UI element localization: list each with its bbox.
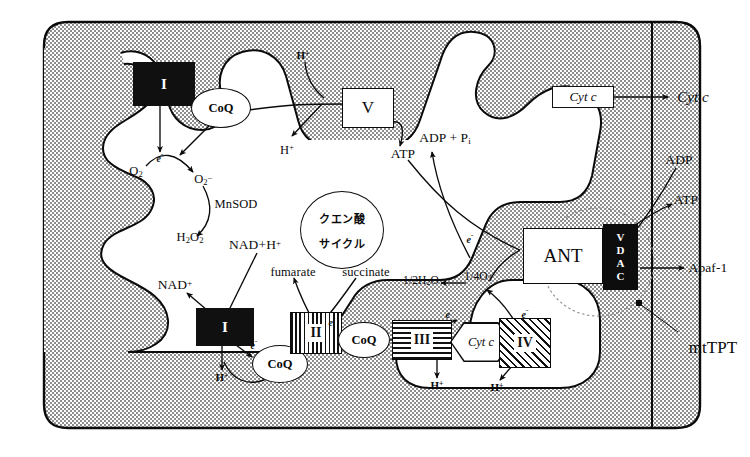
label-mnsod: MnSOD [215,198,258,211]
label-atp-out: ATP [674,193,698,207]
complex-V: V [342,88,394,128]
vdac-label: VDAC [615,231,627,283]
label-o2: O2 [129,165,143,178]
proton-complex-I: H+ [216,371,229,383]
label-nad-plus: NAD+ [158,278,193,292]
label-superoxide: O2– [194,173,212,186]
label-nadh: NAD+H+ [229,238,281,252]
complex-IV-label: IV [515,335,535,351]
label-apaf1: Apaf-1 [689,261,728,275]
electron-complex-I-top: e- [156,150,163,163]
tca-cycle-circle: クエン酸 サイクル [300,191,384,269]
complex-I-top-label: I [161,76,167,93]
vdac-channel: VDAC [603,224,638,290]
complex-III-label: III [412,332,432,348]
cytc-hexagon-label: Cyt c [468,335,494,350]
coq-bottom-label: CoQ [268,357,293,372]
electron-complex-IV: e- [521,306,528,319]
complex-I-bottom-label: I [222,319,228,336]
coq-middle-label: CoQ [352,333,377,348]
complex-III: III [392,320,452,360]
complex-IV: IV [499,318,551,368]
cytc-boxed: Cyt c [552,86,614,108]
label-mtptp: mtTPT [689,339,738,356]
proton-complex-IV: H+ [491,381,504,393]
label-cytc-released: Cyt c [677,90,709,105]
ant-transporter: ANT [523,228,603,284]
complex-II-label: II [309,325,324,341]
complex-I-top: I [133,62,195,106]
coq-top-label: CoQ [209,101,234,116]
proton-below-complex-V: H+ [280,144,294,157]
ant-label: ANT [543,245,582,267]
label-adp-in: ADP [665,153,692,167]
label-quarter-o2: 1/4O2 [464,271,491,284]
label-fumarate: fumarate [270,266,315,279]
coq-middle: CoQ [338,322,390,358]
label-half-water: 1/2H2O [403,275,439,288]
cytc-boxed-label: Cyt c [569,89,596,105]
electron-ant-left: e- [466,231,473,244]
tca-line1: クエン酸 [319,210,365,226]
tca-line2: サイクル [319,235,365,251]
electron-complex-III: e- [445,306,452,319]
label-succinate: succinate [342,266,389,279]
label-atp-from-complex-V: ATP [391,147,415,161]
proton-complex-III: H+ [431,379,444,391]
label-adp-pi: ADP + Pi [419,131,471,146]
mitochondrion-diagram: I CoQ V Cyt c クエン酸 サイクル I CoQ II CoQ III… [0,0,750,457]
complex-I-bottom: I [196,308,254,346]
complex-V-label: V [362,98,374,118]
electron-complex-I-bottom: e- [250,337,257,350]
label-h2o2: H2O2 [177,231,204,244]
electron-complex-II: e- [328,314,335,327]
proton-above-complex-V: H+ [297,49,310,61]
coq-top: CoQ [191,88,251,128]
